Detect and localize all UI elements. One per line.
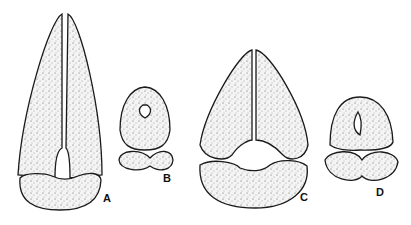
figure-b xyxy=(119,87,173,170)
figure-c xyxy=(200,50,308,208)
label-b: B xyxy=(163,172,171,184)
label-d: D xyxy=(376,186,384,198)
stippled-illustration xyxy=(0,0,411,225)
label-a: A xyxy=(103,192,111,204)
figure-a xyxy=(18,14,102,210)
label-c: C xyxy=(300,191,308,203)
figure-d xyxy=(325,97,398,180)
